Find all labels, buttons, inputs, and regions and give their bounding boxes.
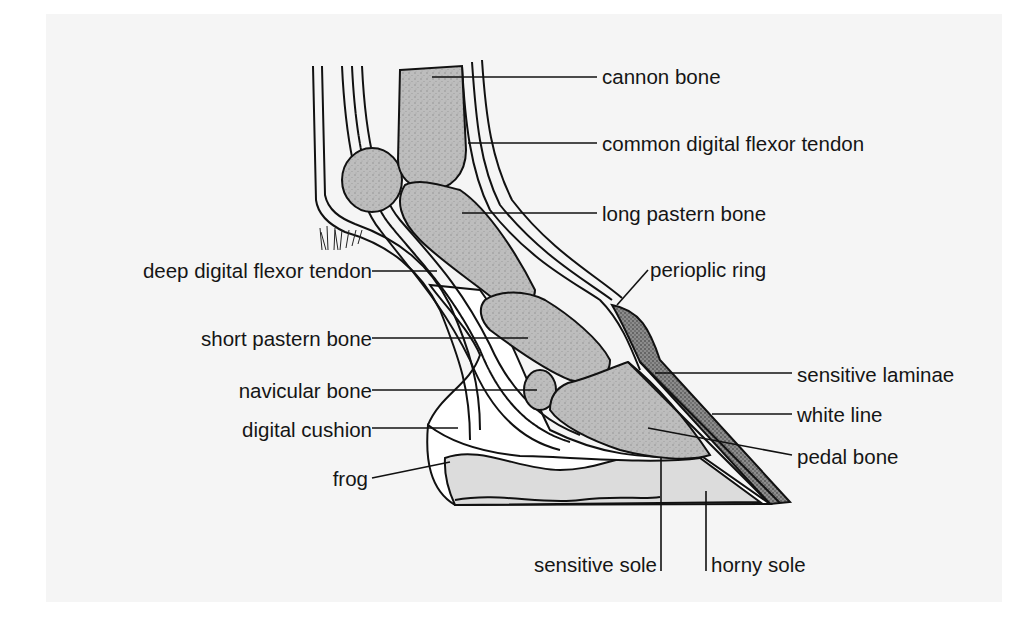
- label-short-pastern-bone: short pastern bone: [201, 327, 372, 350]
- label-digital-cushion: digital cushion: [242, 418, 372, 441]
- label-sensitive-sole: sensitive sole: [534, 553, 657, 576]
- label-long-pastern-bone: long pastern bone: [602, 202, 766, 225]
- label-perioplic-ring: perioplic ring: [650, 258, 766, 281]
- label-deep-digital-flexor-tendon: deep digital flexor tendon: [143, 259, 372, 282]
- label-frog: frog: [333, 467, 368, 490]
- label-white-line: white line: [796, 403, 882, 426]
- hoof-diagram: cannon bone common digital flexor tendon…: [0, 0, 1030, 621]
- label-navicular-bone: navicular bone: [239, 379, 372, 402]
- label-cannon-bone: cannon bone: [602, 65, 721, 88]
- cannon-bone-shape: [398, 66, 466, 190]
- sesamoid-bone: [342, 148, 402, 212]
- label-sensitive-laminae: sensitive laminae: [797, 363, 954, 386]
- label-common-digital-flexor-tendon: common digital flexor tendon: [602, 132, 864, 155]
- label-horny-sole: horny sole: [711, 553, 806, 576]
- label-pedal-bone: pedal bone: [797, 445, 898, 468]
